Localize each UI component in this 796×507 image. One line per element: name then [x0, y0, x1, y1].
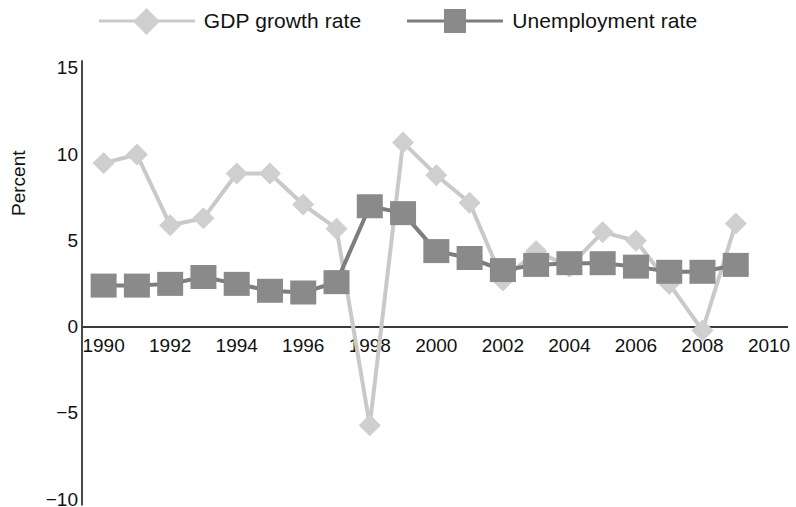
data-point-marker [556, 251, 582, 275]
data-point-marker [423, 239, 449, 263]
data-point-marker [623, 255, 649, 279]
data-point-marker [359, 415, 380, 436]
data-point-marker [126, 144, 147, 165]
data-point-marker [257, 279, 283, 303]
data-point-marker [390, 201, 416, 225]
series-unemployment-rate [91, 194, 749, 304]
data-point-marker [457, 246, 483, 270]
data-point-marker [656, 260, 682, 284]
data-point-marker [224, 272, 250, 296]
data-point-marker [590, 251, 616, 275]
data-point-marker [91, 274, 117, 298]
data-point-marker [124, 274, 150, 298]
data-point-marker [324, 270, 350, 294]
data-point-marker [357, 194, 383, 218]
data-point-marker [190, 265, 216, 289]
data-point-marker [93, 153, 114, 174]
data-point-marker [160, 215, 181, 236]
data-point-marker [290, 281, 316, 305]
data-point-marker [723, 253, 749, 277]
chart-container: GDP growth rate Unemployment rate Percen… [0, 0, 796, 507]
data-point-marker [523, 253, 549, 277]
data-point-marker [725, 213, 746, 234]
data-point-marker [157, 272, 183, 296]
chart-plot-svg [0, 0, 796, 507]
plot-area: Percent 151050−5−10 19901992199419961998… [0, 0, 796, 507]
data-point-marker [689, 260, 715, 284]
data-point-marker [490, 258, 516, 282]
